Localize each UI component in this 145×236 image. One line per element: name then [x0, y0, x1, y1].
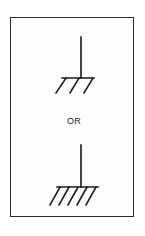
ground-icon-five-hatch	[0, 0, 145, 236]
hatch-line	[50, 187, 60, 205]
hatch-line	[86, 187, 96, 205]
hatch-line	[59, 187, 69, 205]
hatch-line	[77, 187, 87, 205]
hatch-line	[68, 187, 78, 205]
